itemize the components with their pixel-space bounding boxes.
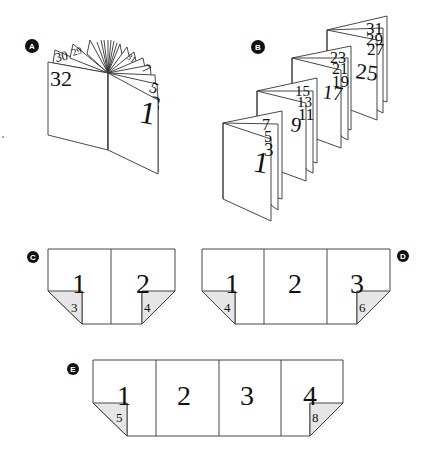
svg-text:B: B (255, 43, 261, 52)
badge-e: E (67, 363, 79, 375)
svg-text:6: 6 (359, 300, 366, 315)
svg-text:4: 4 (224, 300, 231, 315)
panel-c: C 1 2 3 4 (27, 249, 175, 324)
panel-b: B 31 29 27 25 23 21 19 17 (223, 16, 387, 221)
svg-text:C: C (30, 253, 36, 262)
svg-text:3: 3 (71, 300, 78, 315)
badge-b: B (251, 40, 265, 54)
panel-e: E 1 2 3 4 5 8 (67, 360, 343, 436)
svg-text:E: E (70, 365, 76, 374)
svg-text:5: 5 (116, 410, 123, 425)
svg-text:8: 8 (312, 410, 319, 425)
svg-text:17: 17 (321, 80, 344, 105)
signature-group-1: 7 5 3 1 (223, 111, 282, 221)
sheet-c (48, 249, 175, 324)
badge-d: D (397, 250, 409, 262)
panel-d: 1 2 3 4 6 D (202, 249, 409, 324)
svg-text:1: 1 (225, 268, 239, 299)
svg-text:2: 2 (288, 268, 302, 299)
svg-text:3: 3 (350, 268, 364, 299)
svg-text:27: 27 (367, 40, 385, 59)
svg-text:4: 4 (303, 380, 317, 411)
page-number-32: 32 (50, 66, 72, 91)
svg-text:2: 2 (136, 268, 150, 299)
svg-text:4: 4 (144, 300, 151, 315)
svg-text:3: 3 (240, 380, 254, 411)
badge-c: C (27, 251, 39, 263)
svg-text:D: D (400, 252, 406, 261)
imposition-diagram: A 30 29 31 7 5 3 (0, 0, 427, 454)
svg-text:A: A (29, 42, 35, 51)
svg-text:25: 25 (354, 58, 379, 86)
panel-a: A 30 29 31 7 5 3 (25, 39, 163, 174)
svg-text:1: 1 (72, 268, 86, 299)
badge-a: A (25, 39, 39, 53)
svg-text:1: 1 (117, 380, 131, 411)
svg-text:30: 30 (54, 48, 70, 65)
svg-text:2: 2 (177, 380, 191, 411)
